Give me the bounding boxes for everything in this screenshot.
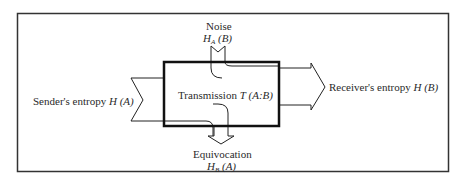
- noise-arg: (B): [218, 32, 232, 44]
- transmission-label: Transmission T (A:B): [178, 89, 273, 101]
- receiver-symbol: H: [413, 81, 421, 93]
- equivocation-arrow: [164, 104, 234, 144]
- sender-label: Sender's entropy H (A): [33, 95, 134, 107]
- sender-symbol: H: [109, 95, 117, 107]
- receiver-label: Receiver's entropy H (B): [329, 81, 438, 93]
- transmission-arg: (A:B): [249, 89, 273, 101]
- equivocation-label: Equivocation: [193, 148, 252, 160]
- receiver-arg: (B): [424, 81, 438, 93]
- transmission-title: Transmission: [178, 89, 237, 101]
- equivocation-formula: HB (A): [207, 160, 236, 176]
- equivocation-subscript: B: [215, 166, 219, 174]
- noise-formula: HA (B): [203, 32, 232, 48]
- sender-arrow-tail: [131, 78, 164, 121]
- noise-title: Noise: [206, 20, 232, 32]
- noise-label: Noise: [206, 20, 232, 32]
- sender-arg: (A): [120, 95, 134, 107]
- equivocation-arg: (A): [222, 160, 236, 172]
- equivocation-title: Equivocation: [193, 148, 252, 160]
- equivocation-symbol: H: [207, 160, 215, 172]
- noise-symbol: H: [203, 32, 211, 44]
- receiver-arrow-head: [279, 63, 325, 110]
- diagram-canvas: Noise HA (B) Transmission T (A:B) Sender…: [0, 0, 462, 187]
- noise-subscript: A: [211, 38, 215, 46]
- receiver-title: Receiver's entropy: [329, 81, 411, 93]
- transmission-symbol: T: [240, 89, 246, 101]
- sender-title: Sender's entropy: [33, 95, 106, 107]
